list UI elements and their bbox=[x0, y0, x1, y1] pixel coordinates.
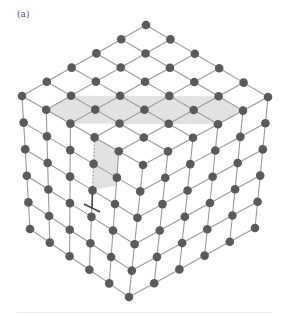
lattice-node bbox=[161, 173, 170, 182]
lattice-node bbox=[228, 211, 237, 220]
lattice-node bbox=[125, 293, 134, 302]
lattice-node bbox=[116, 63, 125, 72]
lattice-node bbox=[189, 134, 198, 143]
lattice-node bbox=[67, 91, 76, 100]
lattice-node bbox=[19, 118, 28, 127]
lattice-node bbox=[239, 78, 248, 87]
lattice-edge bbox=[179, 256, 204, 270]
lattice-node bbox=[259, 145, 268, 154]
lattice-node bbox=[66, 172, 75, 181]
lattice-node bbox=[200, 251, 209, 260]
lattice-node bbox=[208, 172, 217, 181]
lattice-node bbox=[211, 146, 220, 155]
lattice-node bbox=[26, 225, 35, 234]
lattice-node bbox=[116, 91, 125, 100]
lattice-node bbox=[136, 187, 145, 196]
lattice-node bbox=[251, 224, 260, 233]
lattice-node bbox=[65, 225, 74, 234]
lattice-node bbox=[139, 161, 148, 170]
lattice-node bbox=[66, 199, 75, 208]
lattice-node bbox=[133, 214, 142, 223]
lattice-node bbox=[42, 106, 51, 115]
lattice-node bbox=[215, 64, 224, 73]
lattice-node bbox=[45, 212, 54, 221]
lattice-node bbox=[165, 92, 174, 101]
lattice-edge bbox=[232, 202, 257, 216]
lattice-node bbox=[21, 145, 30, 154]
lattice-node bbox=[107, 253, 116, 262]
lattice-node bbox=[181, 212, 190, 221]
lattice-node bbox=[214, 92, 223, 101]
lattice-node bbox=[178, 239, 187, 248]
divider bbox=[17, 312, 272, 313]
lattice-node bbox=[141, 77, 150, 86]
lattice-node bbox=[89, 160, 98, 169]
lattice-edge bbox=[157, 243, 182, 257]
cubic-lattice-diagram bbox=[0, 0, 285, 314]
lattice-node bbox=[153, 253, 162, 262]
lattice-node bbox=[256, 171, 265, 180]
lattice-node bbox=[191, 50, 200, 59]
lattice-node bbox=[18, 92, 27, 101]
lattice-edge bbox=[207, 216, 232, 230]
lattice-node bbox=[206, 199, 215, 208]
lattice-node bbox=[189, 106, 198, 115]
lattice-node bbox=[109, 226, 118, 235]
lattice-node bbox=[115, 147, 124, 156]
lattice-node bbox=[87, 213, 96, 222]
lattice-node bbox=[67, 63, 76, 72]
lattice-edge bbox=[132, 257, 157, 271]
lattice-node bbox=[214, 120, 223, 129]
lattice-node bbox=[236, 133, 245, 142]
lattice-node bbox=[23, 172, 32, 181]
lattice-node bbox=[88, 186, 97, 195]
lattice-node bbox=[186, 160, 195, 169]
lattice-node bbox=[66, 119, 75, 128]
lattice-node bbox=[111, 200, 120, 209]
lattice-node bbox=[43, 132, 52, 141]
lattice-node bbox=[166, 35, 175, 44]
lattice-node bbox=[141, 49, 150, 58]
lattice-edge bbox=[205, 242, 230, 256]
lattice-edge bbox=[129, 283, 154, 297]
lattice-node bbox=[164, 119, 173, 128]
dislocation-symbol-stem bbox=[92, 194, 93, 208]
lattice-node bbox=[155, 226, 164, 235]
lattice-node bbox=[92, 49, 101, 58]
lattice-node bbox=[117, 35, 126, 44]
lattice-node bbox=[226, 238, 235, 247]
lattice-node bbox=[239, 106, 248, 115]
lattice-node bbox=[66, 146, 75, 155]
lattice-node bbox=[261, 119, 270, 128]
lattice-node bbox=[43, 159, 52, 168]
lattice-node bbox=[140, 105, 149, 114]
lattice-node bbox=[44, 185, 53, 194]
lattice-edge bbox=[182, 229, 207, 243]
lattice-node bbox=[183, 186, 192, 195]
lattice-node bbox=[92, 77, 101, 86]
lattice-node bbox=[166, 63, 175, 72]
lattice-node bbox=[253, 198, 262, 207]
lattice-node bbox=[65, 252, 74, 261]
lattice-node bbox=[150, 279, 159, 288]
lattice-node bbox=[113, 173, 122, 182]
lattice-node bbox=[105, 279, 114, 288]
lattice-edge bbox=[230, 228, 255, 242]
lattice-edge bbox=[154, 269, 179, 283]
lattice-node bbox=[46, 238, 55, 247]
lattice-node bbox=[233, 159, 242, 168]
lattice-node bbox=[231, 185, 240, 194]
lattice-node bbox=[24, 198, 33, 207]
lattice-node bbox=[264, 93, 273, 102]
lattice-node bbox=[91, 105, 100, 114]
lattice-node bbox=[190, 78, 199, 87]
lattice-node bbox=[128, 266, 137, 275]
lattice-node bbox=[175, 265, 184, 274]
lattice-node bbox=[164, 147, 173, 156]
lattice-node bbox=[85, 266, 94, 275]
lattice-node bbox=[203, 225, 212, 234]
lattice-node bbox=[86, 239, 95, 248]
lattice-node bbox=[43, 78, 52, 87]
lattice-node bbox=[115, 119, 124, 128]
lattice-node bbox=[158, 200, 167, 209]
